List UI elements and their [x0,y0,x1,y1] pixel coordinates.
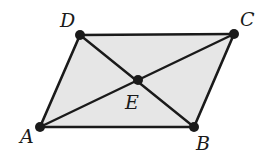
point-c [229,29,239,39]
label-b: B [195,132,210,154]
parallelogram-diagram: A B C D E [0,0,269,154]
edge-cd [80,34,234,35]
point-d [75,30,85,40]
label-c: C [240,8,255,30]
label-d: D [59,9,75,31]
label-e: E [124,91,139,113]
point-e [133,75,143,85]
label-a: A [18,125,34,147]
point-a [35,122,45,132]
point-b [189,122,199,132]
